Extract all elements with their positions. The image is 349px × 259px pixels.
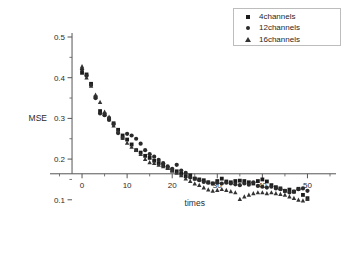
data-point (175, 163, 179, 167)
x-axis-title: times (185, 198, 205, 208)
data-point (193, 177, 197, 181)
x-tick-label: 10 (123, 181, 132, 190)
data-point (251, 191, 255, 195)
data-point (247, 193, 251, 197)
legend-item-12channels: 12channels (240, 22, 336, 33)
data-point (197, 178, 201, 182)
data-point (147, 160, 151, 164)
y-tick-label: 0.1 (54, 196, 66, 205)
data-points-group (80, 64, 310, 203)
data-point (134, 137, 138, 141)
axes-group (50, 33, 336, 200)
data-point (247, 183, 251, 187)
data-point (197, 183, 201, 187)
data-point (296, 187, 300, 191)
data-point (301, 198, 305, 202)
data-point (296, 197, 300, 201)
square-marker-icon (240, 15, 256, 19)
data-point (184, 171, 188, 175)
data-point (152, 155, 156, 159)
axis-labels-group: 0.10.20.30.40.501020304050MSEtimes (29, 33, 313, 208)
data-point (278, 192, 282, 196)
data-point (265, 191, 269, 195)
data-point (188, 179, 192, 183)
x-tick-label: 30 (213, 181, 222, 190)
data-point (292, 196, 296, 200)
x-tick-label: 40 (258, 181, 267, 190)
data-point (251, 180, 255, 184)
data-point (278, 187, 282, 191)
data-point (98, 100, 102, 104)
data-point (256, 190, 260, 194)
data-point (148, 156, 152, 160)
data-point (80, 64, 84, 68)
data-point (283, 189, 287, 193)
chart-figure: 0.10.20.30.40.501020304050MSEtimes 4chan… (0, 0, 349, 259)
data-point (233, 190, 237, 194)
y-tick-label: 0.2 (54, 155, 66, 164)
data-point (125, 132, 129, 136)
y-tick-label: 0.5 (54, 33, 66, 42)
data-point (224, 188, 228, 192)
data-point (260, 190, 264, 194)
y-tick-label: 0.4 (54, 74, 66, 83)
x-tick-label: 50 (303, 181, 312, 190)
legend-label: 4channels (259, 12, 295, 21)
data-point (233, 182, 237, 186)
triangle-marker-icon (240, 37, 256, 42)
data-point (206, 187, 210, 191)
data-point (274, 186, 278, 190)
data-point (179, 168, 183, 172)
data-point (238, 183, 242, 187)
data-point (148, 152, 152, 156)
legend-item-16channels: 16channels (240, 34, 336, 45)
x-tick-label: 0 (80, 181, 85, 190)
legend-item-4channels: 4channels (240, 11, 336, 22)
data-point (238, 197, 242, 201)
data-point (98, 111, 102, 115)
legend-label: 16channels (259, 35, 300, 44)
data-point (93, 92, 97, 96)
data-point (202, 185, 206, 189)
series-16channels (80, 64, 310, 203)
data-point (202, 180, 206, 184)
data-point (287, 194, 291, 198)
data-point (229, 181, 233, 185)
data-point (283, 193, 287, 197)
data-point (287, 190, 291, 194)
data-point (143, 148, 147, 152)
data-point (229, 189, 233, 193)
data-point (269, 190, 273, 194)
data-point (157, 158, 161, 162)
data-point (242, 181, 246, 185)
legend-label: 12channels (259, 23, 300, 32)
data-point (301, 193, 305, 197)
data-point (193, 181, 197, 185)
data-point (139, 142, 143, 146)
data-point (130, 133, 134, 137)
circle-marker-icon (240, 26, 256, 31)
data-point (274, 191, 278, 195)
x-tick-label: 20 (168, 181, 177, 190)
data-point (269, 185, 273, 189)
data-point (292, 190, 296, 194)
data-point (242, 194, 246, 198)
data-point (102, 110, 106, 114)
data-point (238, 179, 242, 183)
data-point (206, 181, 210, 185)
y-axis-title: MSE (29, 113, 48, 123)
data-point (224, 181, 228, 185)
y-tick-label: 0.3 (54, 114, 66, 123)
chart-legend: 4channels 12channels 16channels (233, 8, 341, 46)
